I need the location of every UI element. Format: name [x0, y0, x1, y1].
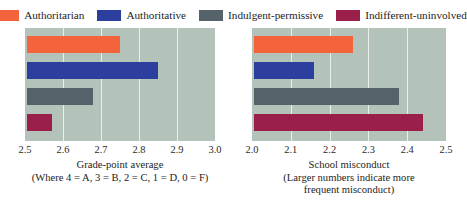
- caption-left: Grade-point average (Where 4 = A, 3 = B,…: [25, 159, 215, 184]
- legend-label-indifferent-uninvolved: Indifferent-uninvolved: [365, 10, 467, 21]
- bar-indifferent-uninvolved: [254, 114, 423, 131]
- axis-note-right: (Larger numbers indicate more: [252, 172, 446, 185]
- x-tick-label: 2.4: [401, 142, 414, 157]
- bar-authoritative: [27, 62, 158, 79]
- bar-authoritative: [254, 62, 314, 79]
- legend-label-indulgent-permissive: Indulgent-permissive: [228, 10, 323, 21]
- bar-indifferent-uninvolved: [27, 114, 52, 131]
- x-tick-label: 3.0: [209, 142, 222, 157]
- chart-panel-school-misconduct: 2.02.12.22.32.42.5 School misconduct (La…: [252, 28, 446, 197]
- caption-right: School misconduct (Larger numbers indica…: [252, 159, 446, 197]
- chart-panel-grade-point-average: 2.52.62.72.82.93.0 Grade-point average (…: [25, 28, 215, 184]
- legend-swatch-indifferent-uninvolved: [336, 10, 360, 21]
- chart-legend: Authoritarian Authoritative Indulgent-pe…: [0, 6, 462, 24]
- legend-item-authoritative: Authoritative: [97, 10, 186, 21]
- axis-title-right: School misconduct: [252, 159, 446, 172]
- legend-label-authoritarian: Authoritarian: [24, 10, 84, 21]
- x-axis-right: 2.02.12.22.32.42.5: [252, 142, 446, 158]
- bar-series-right: [252, 28, 446, 141]
- x-tick-label: 2.3: [362, 142, 375, 157]
- x-tick-label: 2.6: [57, 142, 70, 157]
- charts-container: 2.52.62.72.82.93.0 Grade-point average (…: [0, 28, 462, 215]
- bar-indulgent-permissive: [27, 88, 93, 105]
- x-tick-label: 2.1: [284, 142, 297, 157]
- x-tick-label: 2.5: [19, 142, 32, 157]
- legend-item-indulgent-permissive: Indulgent-permissive: [199, 10, 323, 21]
- legend-swatch-authoritarian: [0, 10, 19, 21]
- plot-area-right: [252, 28, 446, 141]
- legend-item-indifferent-uninvolved: Indifferent-uninvolved: [336, 10, 467, 21]
- bar-series-left: [25, 28, 215, 141]
- axis-title-left: Grade-point average: [25, 159, 215, 172]
- x-tick-label: 2.8: [133, 142, 146, 157]
- bar-authoritarian: [27, 36, 120, 53]
- x-tick-label: 2.0: [246, 142, 259, 157]
- legend-swatch-authoritative: [97, 10, 121, 21]
- bar-authoritarian: [254, 36, 353, 53]
- x-tick-label: 2.9: [171, 142, 184, 157]
- x-tick-label: 2.7: [95, 142, 108, 157]
- legend-swatch-indulgent-permissive: [199, 10, 223, 21]
- x-axis-left: 2.52.62.72.82.93.0: [25, 142, 215, 158]
- x-tick-label: 2.2: [323, 142, 336, 157]
- plot-area-left: [25, 28, 215, 141]
- x-tick-label: 2.5: [440, 142, 453, 157]
- axis-note2-right: frequent misconduct): [252, 184, 446, 197]
- bar-indulgent-permissive: [254, 88, 399, 105]
- axis-note-left: (Where 4 = A, 3 = B, 2 = C, 1 = D, 0 = F…: [25, 172, 215, 185]
- legend-item-authoritarian: Authoritarian: [0, 10, 84, 21]
- legend-label-authoritative: Authoritative: [126, 10, 186, 21]
